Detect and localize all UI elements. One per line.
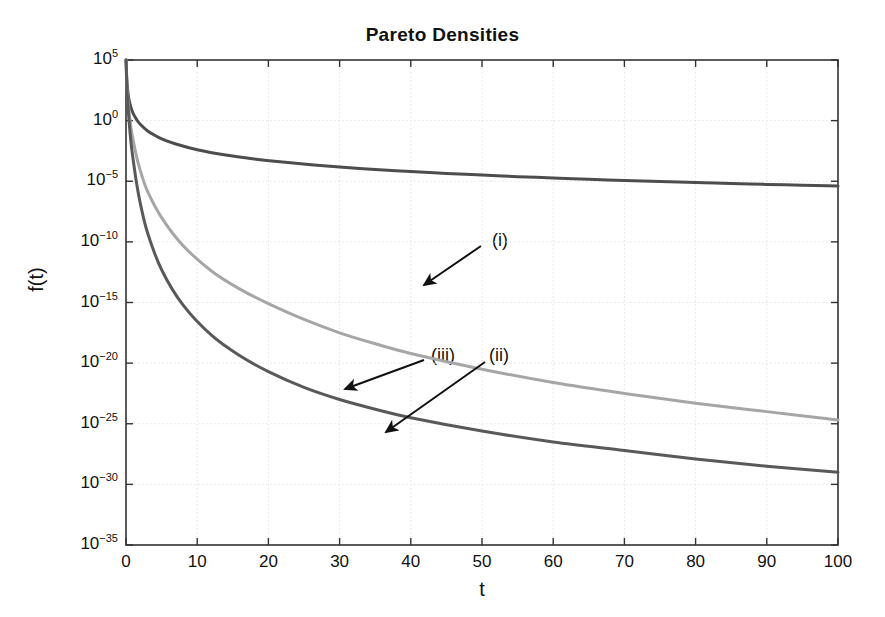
grid-lines — [126, 60, 838, 545]
chart-figure: Pareto Densities f(t) t 10510010−510−101… — [0, 0, 885, 617]
annotation-arrow-i — [424, 246, 481, 285]
curve-ii — [126, 70, 838, 473]
annotation-arrow-iii — [345, 360, 424, 389]
plot-canvas — [0, 0, 885, 617]
annotation-arrows — [345, 246, 485, 432]
data-curves — [126, 60, 838, 472]
